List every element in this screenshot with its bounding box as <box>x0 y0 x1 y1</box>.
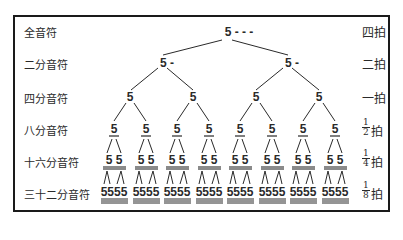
note-sixteenth-pair: 5 5 <box>138 154 155 166</box>
note-thirty-second-group: 5555 <box>101 186 128 198</box>
note-sixteenth-pair: 5 5 <box>295 154 312 166</box>
note-half: 5 - <box>160 57 174 69</box>
note-eighth: 5 <box>332 123 339 135</box>
note-sixteenth-pair: 5 5 <box>327 154 344 166</box>
note-eighth: 5 <box>174 123 181 135</box>
note-eighth: 5 <box>111 123 118 135</box>
note-quarter: 5 <box>190 91 197 103</box>
note-sixteenth-pair: 5 5 <box>201 154 218 166</box>
note-thirty-second-group: 5555 <box>290 186 317 198</box>
note-quarter: 5 <box>316 91 323 103</box>
note-eighth: 5 <box>143 123 150 135</box>
note-sixteenth-pair: 5 5 <box>264 154 281 166</box>
note-quarter: 5 <box>253 91 260 103</box>
note-thirty-second-group: 5555 <box>322 186 349 198</box>
note-whole: 5 - - - <box>225 26 254 38</box>
note-thirty-second-group: 5555 <box>259 186 286 198</box>
note-thirty-second-group: 5555 <box>164 186 191 198</box>
note-eighth: 5 <box>300 123 307 135</box>
note-thirty-second-group: 5555 <box>133 186 160 198</box>
note-quarter: 5 <box>127 91 134 103</box>
note-eighth: 5 <box>269 123 276 135</box>
note-half: 5 - <box>285 57 299 69</box>
note-sixteenth-pair: 5 5 <box>106 154 123 166</box>
note-thirty-second-group: 5555 <box>196 186 223 198</box>
note-eighth: 5 <box>206 123 213 135</box>
note-sixteenth-pair: 5 5 <box>169 154 186 166</box>
note-eighth: 5 <box>237 123 244 135</box>
note-sixteenth-pair: 5 5 <box>232 154 249 166</box>
note-thirty-second-group: 5555 <box>227 186 254 198</box>
